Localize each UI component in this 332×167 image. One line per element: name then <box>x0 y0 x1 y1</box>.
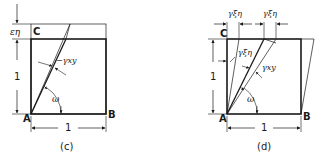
figure-d-inner-gamma-label: γξη <box>238 48 252 57</box>
figure-c-outer-outline <box>31 24 106 114</box>
figure-c-diagonal-2 <box>31 24 70 114</box>
figure-c-omega-label: ω <box>52 94 60 104</box>
figure-c-height-label: 1 <box>14 71 20 82</box>
figure-c-vertex-b: B <box>108 109 116 120</box>
figure-c-shear-label: −γxy <box>56 56 77 65</box>
figure-d-vertex-b: B <box>303 111 311 122</box>
figure-c-square <box>31 39 106 114</box>
figure-c-vertex-c: C <box>33 26 40 37</box>
figure-c-vertex-a: A <box>23 113 31 124</box>
figure-d-caption: (d) <box>257 141 271 152</box>
figure-d-shear-label: γxy <box>262 63 276 72</box>
figure-c-eps-label: εη <box>10 27 21 37</box>
figure-d-vertex-a: A <box>219 113 227 124</box>
figure-d-omega-label: ω <box>247 94 255 104</box>
figure-d-slanted-side <box>301 39 314 114</box>
figure-d-width-label: 1 <box>261 122 267 133</box>
figure-c-width-label: 1 <box>65 122 71 133</box>
figure-d-height-label: 1 <box>210 71 216 82</box>
strain-diagrams: εη C 1 −γxy ω A B 1 (c) <box>0 0 332 167</box>
figure-d-top-left-label: γξη <box>228 9 242 18</box>
figure-d-top-right-label: γξη <box>263 9 277 18</box>
figure-d-vertex-c: C <box>220 28 227 39</box>
figure-c-caption: (c) <box>60 141 73 152</box>
